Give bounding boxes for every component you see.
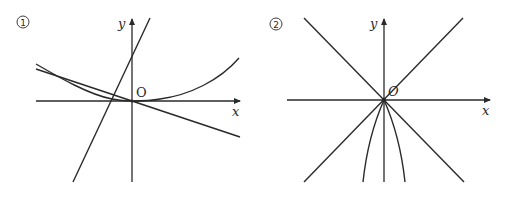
figure-2-origin-dot bbox=[382, 98, 386, 102]
figure-1-number: 1 bbox=[20, 18, 26, 28]
figure-1-origin-label: O bbox=[136, 85, 147, 100]
figure-1-x-label: x bbox=[232, 104, 240, 119]
diagram-canvas: 1 y x O 2 bbox=[0, 0, 506, 199]
figure-2-number: 2 bbox=[273, 20, 279, 30]
figure-1: 1 y x O bbox=[17, 16, 240, 182]
figure-2: 2 y x O bbox=[270, 16, 490, 182]
figure-2-left-curve bbox=[363, 100, 384, 182]
figure-1-number-badge: 1 bbox=[17, 16, 29, 28]
figure-2-right-curve bbox=[384, 100, 405, 182]
figure-2-number-badge: 2 bbox=[270, 18, 282, 30]
figure-1-y-label: y bbox=[117, 16, 126, 31]
figure-2-x-label: x bbox=[482, 103, 490, 118]
figure-1-decreasing-line bbox=[36, 69, 240, 137]
figure-1-origin-dot bbox=[130, 99, 133, 102]
figure-2-y-label: y bbox=[369, 16, 378, 31]
figure-1-steep-line bbox=[73, 18, 150, 182]
